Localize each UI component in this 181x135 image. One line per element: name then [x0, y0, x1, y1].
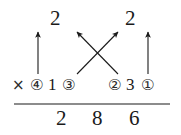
product-digit-tens: 8	[92, 108, 103, 129]
product-digit-ones: 6	[129, 108, 140, 129]
step-marker-1: ①	[141, 78, 154, 93]
arrow-diagonal-left-up	[77, 32, 118, 74]
multiplier-digit-3: 3	[126, 76, 135, 93]
step-marker-2: ②	[108, 78, 121, 93]
step-marker-4: ④	[30, 78, 43, 93]
product-digit-hundreds: 2	[56, 108, 67, 129]
arrow-diagonal-right-up	[77, 32, 118, 74]
multiplication-sign: ×	[12, 78, 25, 93]
multiplicand-digit-1: 1	[48, 76, 57, 93]
carry-digit-left: 2	[50, 8, 61, 29]
arrow-layer	[0, 0, 181, 135]
carry-digit-right: 2	[125, 8, 136, 29]
step-marker-3: ③	[62, 78, 75, 93]
multiplication-diagram: 2 2 × ④ 1 ③ ② 3 ① 2 8 6	[0, 0, 181, 135]
